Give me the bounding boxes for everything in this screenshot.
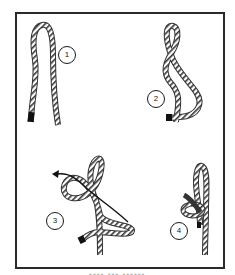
step-4-label: 4: [170, 222, 188, 240]
figure-caption-truncated: ▪▪▪▪ ▪▪▪ ▪▪▪▪▪▪: [0, 270, 235, 275]
step-2-label: 2: [147, 90, 165, 108]
step-1-label: 1: [58, 46, 76, 64]
knot-illustration: [0, 0, 235, 275]
arrow-icon: [52, 170, 59, 178]
step-4-rope: [183, 166, 207, 255]
step-1-rope: [27, 25, 58, 125]
step-3-rope: [52, 158, 132, 255]
step-3-label: 3: [46, 212, 64, 230]
step-2-rope: [166, 26, 200, 122]
